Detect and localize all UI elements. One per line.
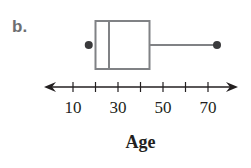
tick-label: 30 (110, 98, 127, 117)
box-plot-chart: 10305070Age (0, 0, 251, 168)
tick-label: 70 (200, 98, 217, 117)
x-axis-label: Age (126, 132, 156, 152)
box-iqr (96, 21, 150, 69)
tick-label: 50 (155, 98, 172, 117)
max-dot (213, 41, 221, 49)
min-dot (85, 41, 93, 49)
tick-label: 10 (65, 98, 82, 117)
